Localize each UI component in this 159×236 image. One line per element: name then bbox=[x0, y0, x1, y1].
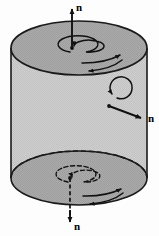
top-normal-label: n bbox=[76, 2, 82, 13]
cylinder-svg bbox=[0, 0, 159, 236]
cylinder-bottom-face bbox=[11, 151, 147, 205]
bottom-normal-label: n bbox=[74, 221, 80, 232]
side-normal-label: n bbox=[148, 113, 154, 124]
cylinder-normal-vectors-figure: n n n bbox=[0, 0, 159, 236]
cylinder-top-face bbox=[11, 21, 147, 75]
